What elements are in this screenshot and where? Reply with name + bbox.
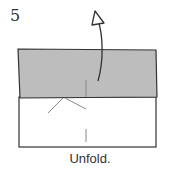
paper-bottom-layer: [19, 97, 156, 147]
folded-flap: [18, 49, 157, 98]
origami-diagram: [0, 0, 169, 172]
step-caption: Unfold.: [0, 151, 169, 166]
